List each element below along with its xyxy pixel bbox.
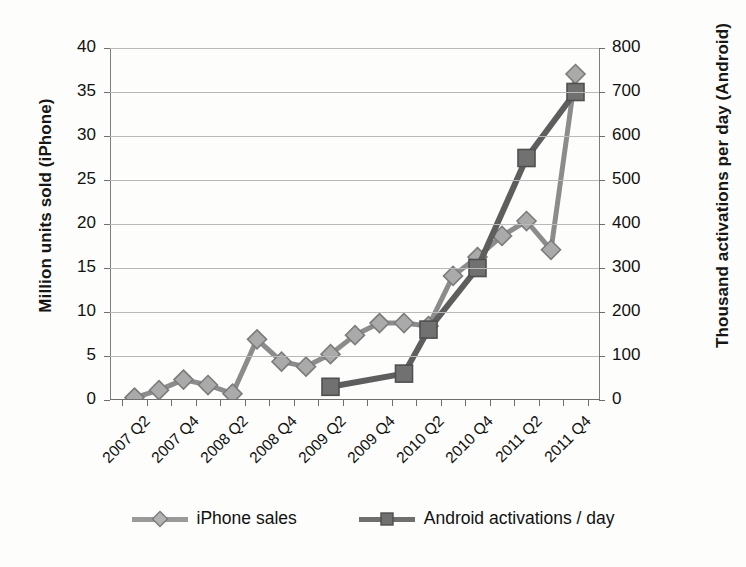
data-point-diamond [150,381,169,400]
x-tick [490,400,491,406]
x-tick [416,400,417,406]
gridline [110,136,600,137]
legend-label-iphone: iPhone sales [197,508,297,529]
legend-marker-square-icon [359,511,415,527]
y-tick-left [104,92,110,93]
x-tick [441,400,442,406]
y-axis-left-title: Million units sold (iPhone) [36,26,55,386]
gridline [110,356,600,357]
y-tick-right [599,136,605,137]
y-tick-left [104,136,110,137]
y-tick-left [104,356,110,357]
y-tick-label-left: 5 [34,345,96,365]
chart-figure: Million units sold (iPhone) Thousand act… [0,0,746,567]
gridline [110,268,600,269]
y-tick-label-left: 15 [34,257,96,277]
y-tick-label-left: 0 [34,389,96,409]
gridline [110,92,600,93]
data-point-diamond [199,376,218,395]
x-tick [563,400,564,406]
y-tick-left [104,400,110,401]
data-point-square [518,150,535,167]
y-tick-right [599,356,605,357]
data-point-square [420,321,437,338]
legend-item-android[interactable]: Android activations / day [359,508,615,529]
series-iphone [125,65,585,400]
y-tick-right [599,48,605,49]
plot-area [110,48,600,400]
y-tick-right [599,400,605,401]
y-tick-right [599,268,605,269]
x-tick [147,400,148,406]
y-axis-right-title: Thousand activations per day (Android) [713,6,732,366]
legend-marker-diamond-icon [132,511,188,527]
x-tick [294,400,295,406]
y-tick-left [104,312,110,313]
y-tick-right [599,312,605,313]
chart-legend: iPhone sales Android activations / day [0,508,746,529]
x-tick [220,400,221,406]
y-tick-label-left: 10 [34,301,96,321]
y-tick-right [599,180,605,181]
y-tick-label-left: 25 [34,169,96,189]
y-tick-left [104,180,110,181]
x-tick [196,400,197,406]
y-tick-label-right: 500 [612,169,640,189]
x-tick [318,400,319,406]
y-tick-label-left: 20 [34,213,96,233]
data-point-diamond [395,314,414,333]
y-tick-label-left: 35 [34,81,96,101]
y-tick-label-right: 700 [612,81,640,101]
x-axis-line [110,399,600,401]
y-tick-label-left: 30 [34,125,96,145]
data-point-square [396,365,413,382]
x-tick [269,400,270,406]
x-tick [539,400,540,406]
gridline [110,224,600,225]
data-point-diamond [370,314,389,333]
y-tick-label-left: 40 [34,37,96,57]
x-tick [465,400,466,406]
legend-item-iphone[interactable]: iPhone sales [132,508,297,529]
x-tick [367,400,368,406]
y-tick-label-right: 0 [612,389,621,409]
x-tick [245,400,246,406]
x-tick [171,400,172,406]
x-tick [392,400,393,406]
gridline [110,312,600,313]
y-tick-label-right: 800 [612,37,640,57]
y-tick-right [599,92,605,93]
x-tick [588,400,589,406]
data-point-diamond [566,65,585,84]
data-point-square [322,378,339,395]
y-tick-left [104,268,110,269]
y-tick-label-right: 200 [612,301,640,321]
gridline [110,180,600,181]
y-tick-right [599,224,605,225]
y-tick-label-right: 100 [612,345,640,365]
y-tick-label-right: 600 [612,125,640,145]
data-point-diamond [297,357,316,376]
gridline [110,48,600,49]
data-point-diamond [174,370,193,389]
y-tick-left [104,48,110,49]
x-tick [514,400,515,406]
y-tick-left [104,224,110,225]
x-tick [343,400,344,406]
y-tick-label-right: 300 [612,257,640,277]
x-tick [122,400,123,406]
legend-label-android: Android activations / day [424,508,615,529]
y-tick-label-right: 400 [612,213,640,233]
